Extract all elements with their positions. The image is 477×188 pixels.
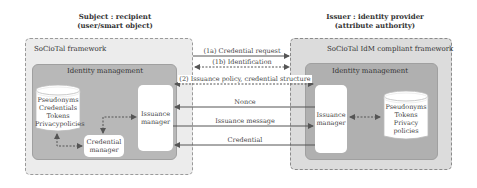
label-nonce: Nonce bbox=[195, 98, 295, 106]
label-2: (2) Issuance policy, credential structur… bbox=[178, 75, 312, 83]
subject-title-line2: (user/smart object) bbox=[60, 21, 170, 30]
store-item: policies bbox=[383, 127, 429, 135]
issuer-data-store: Pseudonyms Tokens Privacy policies bbox=[383, 90, 429, 142]
store-item: Tokens bbox=[35, 112, 81, 120]
subject-issuance-manager: Issuance manager bbox=[138, 85, 173, 151]
store-item: Privacypolicies bbox=[35, 120, 81, 128]
label-1b: (1b) Identification bbox=[195, 58, 289, 66]
issuer-title-line2: (attribute authority) bbox=[320, 21, 430, 30]
store-item: Credentials bbox=[35, 104, 81, 112]
issuer-title-line1: Issuer : identity provider bbox=[320, 12, 430, 21]
label-issuance-message: Issuance message bbox=[195, 117, 295, 125]
subject-idm-label: Identity management bbox=[60, 67, 150, 75]
store-item: Privacy bbox=[383, 119, 429, 127]
subject-framework-label: SoCioTal framework bbox=[34, 45, 106, 53]
store-item: Pseudonyms bbox=[35, 96, 81, 104]
subject-title-line1: Subject : recipient bbox=[60, 12, 170, 21]
label-1a: (1a) Credential request bbox=[195, 47, 289, 55]
issuer-title: Issuer : identity provider (attribute au… bbox=[320, 12, 430, 30]
store-item: Pseudonyms bbox=[383, 103, 429, 111]
issuer-issuance-manager: Issuance manager bbox=[315, 85, 347, 153]
issuer-framework-label: SoCioTal IdM compliant framework bbox=[327, 45, 453, 53]
issuer-idm-label: Identity management bbox=[325, 67, 415, 75]
credential-manager: Credential manager bbox=[84, 135, 124, 157]
store-item: Tokens bbox=[383, 111, 429, 119]
subject-data-store: Pseudonyms Credentials Tokens Privacypol… bbox=[35, 84, 81, 134]
label-credential: Credential bbox=[195, 136, 295, 144]
subject-title: Subject : recipient (user/smart object) bbox=[60, 12, 170, 30]
